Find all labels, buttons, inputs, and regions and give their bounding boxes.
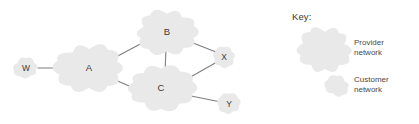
legend-provider-line2: network [354, 48, 384, 58]
legend-customer-cloud-icon [324, 75, 348, 96]
figure-root: WABCXY Key: Provider network Customer ne… [0, 0, 419, 124]
legend-provider-cloud-icon [297, 27, 352, 72]
node-c: C [128, 65, 198, 111]
network-diagram-canvas: WABCXY [0, 0, 419, 124]
legend-provider-network-label: Provider network [354, 38, 384, 58]
node-b: B [137, 10, 199, 55]
node-a: A [53, 44, 123, 92]
node-x: X [213, 47, 235, 69]
node-label-x: X [221, 52, 227, 62]
key-heading: Key: [292, 11, 311, 22]
legend-swatches-group [297, 27, 352, 97]
legend-provider-line1: Provider [354, 38, 384, 48]
node-label-a: A [86, 62, 93, 73]
node-label-c: C [158, 82, 165, 93]
node-label-y: Y [226, 99, 232, 109]
node-label-w: W [22, 63, 30, 73]
node-w: W [13, 58, 37, 79]
legend-customer-network-label: Customer network [354, 75, 389, 95]
legend-customer-line2: network [354, 85, 389, 95]
legend-customer-line1: Customer [354, 75, 389, 85]
node-label-b: B [164, 26, 170, 37]
node-y: Y [217, 93, 241, 114]
